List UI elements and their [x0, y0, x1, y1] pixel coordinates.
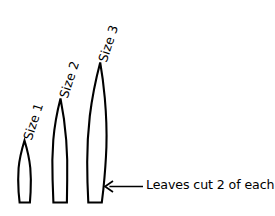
- leaf-shape-size-1: [18, 141, 31, 203]
- leaves-cut-caption: Leaves cut 2 of each: [146, 179, 274, 192]
- leaf-shape-size-2: [52, 99, 67, 203]
- leaf-pattern-diagram: Size 1 Size 2 Size 3 Leaves cut 2 of eac…: [0, 0, 275, 216]
- leaf-shape-size-3: [87, 63, 106, 203]
